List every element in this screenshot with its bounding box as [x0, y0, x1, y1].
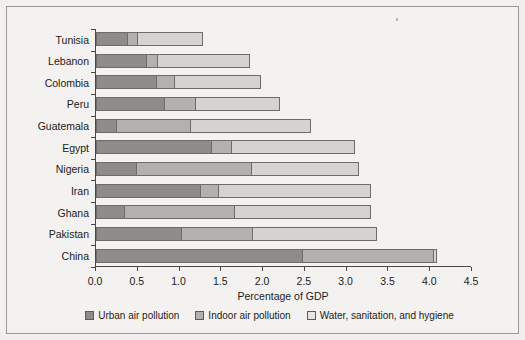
- y-axis-tick: [91, 202, 95, 203]
- plot-area: TunisiaLebanonColombiaPeruGuatemalaEgypt…: [95, 29, 471, 267]
- x-axis-tick-label: 1.0: [171, 276, 186, 287]
- bar-segment: [302, 250, 432, 262]
- category-label: Lebanon: [48, 56, 89, 67]
- legend-item[interactable]: Urban air pollution: [85, 310, 179, 321]
- bar-segment: [433, 250, 436, 262]
- x-axis-tick-label: 1.5: [213, 276, 228, 287]
- legend-swatch-icon: [85, 311, 94, 320]
- y-axis-tick: [91, 29, 95, 30]
- y-axis-tick: [91, 137, 95, 138]
- bar-segment: [124, 206, 234, 218]
- bar-segment: [174, 76, 260, 88]
- bar-segment: [146, 55, 157, 67]
- y-axis-tick: [91, 180, 95, 181]
- y-axis-tick: [91, 116, 95, 117]
- bar-segment: [116, 120, 190, 132]
- y-axis-tick: [91, 159, 95, 160]
- category-label: Pakistan: [49, 229, 89, 240]
- stacked-bar: [96, 32, 203, 46]
- x-axis-tick: [137, 267, 138, 271]
- bar-segment: [97, 228, 181, 240]
- x-axis-tick: [262, 267, 263, 271]
- bar-segment: [97, 185, 200, 197]
- stacked-bar: [96, 162, 359, 176]
- y-axis-tick: [91, 51, 95, 52]
- bar-segment: [97, 98, 164, 110]
- category-label: Guatemala: [38, 121, 89, 132]
- category-label: Ghana: [57, 208, 89, 219]
- category-label: Tunisia: [56, 35, 89, 46]
- bar-segment: [218, 185, 370, 197]
- x-axis-tick: [346, 267, 347, 271]
- stacked-bar: [96, 227, 377, 241]
- bar-segment: [157, 55, 249, 67]
- legend-label: Water, sanitation, and hygiene: [320, 310, 454, 321]
- chart-frame: TunisiaLebanonColombiaPeruGuatemalaEgypt…: [6, 6, 519, 334]
- legend-label: Urban air pollution: [98, 310, 179, 321]
- legend-item[interactable]: Water, sanitation, and hygiene: [307, 310, 454, 321]
- bar-segment: [164, 98, 195, 110]
- category-label: Colombia: [45, 78, 89, 89]
- x-axis-title: Percentage of GDP: [95, 290, 471, 302]
- legend-item[interactable]: Indoor air pollution: [195, 310, 290, 321]
- x-axis-tick-label: 4.5: [464, 276, 479, 287]
- bar-segment: [211, 141, 231, 153]
- y-axis-tick: [91, 94, 95, 95]
- x-axis-tick: [304, 267, 305, 271]
- y-axis-tick: [91, 245, 95, 246]
- bar-segment: [252, 228, 376, 240]
- bar-segment: [190, 120, 310, 132]
- bar-segment: [97, 55, 146, 67]
- bar-segment: [195, 98, 278, 110]
- stacked-bar: [96, 249, 437, 263]
- x-axis-tick-label: 2.5: [297, 276, 312, 287]
- x-axis-tick: [471, 267, 472, 271]
- bar-segment: [234, 206, 370, 218]
- bar-segment: [156, 76, 173, 88]
- bar-segment: [97, 141, 211, 153]
- bar-segment: [137, 33, 202, 45]
- legend-swatch-icon: [195, 311, 204, 320]
- stacked-bar: [96, 184, 371, 198]
- x-axis-tick: [429, 267, 430, 271]
- y-axis-tick: [91, 224, 95, 225]
- category-label: Iran: [71, 186, 89, 197]
- category-label: Nigeria: [56, 164, 89, 175]
- x-axis-tick-label: 0.5: [129, 276, 144, 287]
- legend-swatch-icon: [307, 311, 316, 320]
- x-axis-line: [95, 266, 471, 267]
- x-axis-tick-label: 2.0: [255, 276, 270, 287]
- bar-segment: [97, 163, 136, 175]
- bar-segment: [200, 185, 218, 197]
- x-axis-tick-label: 3.5: [380, 276, 395, 287]
- bar-segment: [127, 33, 137, 45]
- bar-segment: [181, 228, 252, 240]
- stacked-bar: [96, 75, 261, 89]
- bar-segment: [231, 141, 354, 153]
- bar-segment: [97, 206, 124, 218]
- bar-segment: [97, 120, 116, 132]
- x-axis-tick: [387, 267, 388, 271]
- chart-legend: Urban air pollutionIndoor air pollutionW…: [7, 310, 525, 321]
- x-axis-tick-label: 0.0: [88, 276, 103, 287]
- legend-label: Indoor air pollution: [208, 310, 290, 321]
- x-axis-tick: [95, 267, 96, 271]
- x-axis-tick: [220, 267, 221, 271]
- bar-segment: [251, 163, 358, 175]
- bar-segment: [97, 33, 127, 45]
- stacked-bar: [96, 205, 371, 219]
- x-axis-tick-label: 3.0: [338, 276, 353, 287]
- image-speck: [396, 18, 398, 21]
- bar-segment: [97, 76, 156, 88]
- x-axis-tick-label: 4.0: [422, 276, 437, 287]
- stacked-bar: [96, 119, 311, 133]
- stacked-bar: [96, 140, 355, 154]
- category-label: Egypt: [62, 143, 89, 154]
- bar-segment: [136, 163, 251, 175]
- chart-figure: TunisiaLebanonColombiaPeruGuatemalaEgypt…: [0, 0, 525, 340]
- category-label: Peru: [67, 99, 89, 110]
- x-axis-tick: [179, 267, 180, 271]
- bar-segment: [97, 250, 302, 262]
- stacked-bar: [96, 54, 250, 68]
- stacked-bar: [96, 97, 280, 111]
